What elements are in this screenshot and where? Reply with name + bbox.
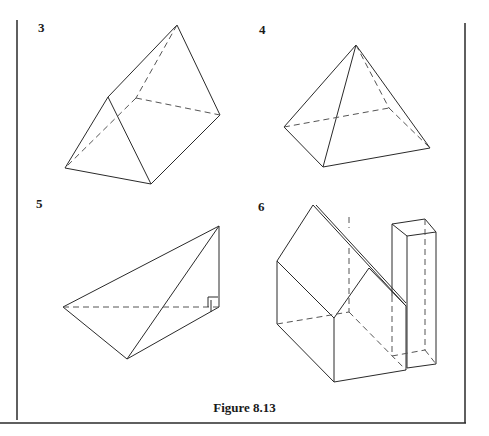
panel-label-6: 6	[258, 199, 265, 215]
right-angled-tetrahedron	[63, 226, 219, 359]
triangular-prism	[65, 25, 220, 184]
house-with-chimney	[277, 205, 436, 382]
square-pyramid	[284, 45, 430, 167]
panel-label-5: 5	[36, 196, 43, 212]
figure-caption: Figure 8.13	[0, 400, 489, 416]
panel-label-4: 4	[259, 22, 266, 38]
figure-frame	[0, 20, 466, 423]
figure-canvas	[0, 0, 489, 436]
panel-label-3: 3	[38, 20, 45, 36]
